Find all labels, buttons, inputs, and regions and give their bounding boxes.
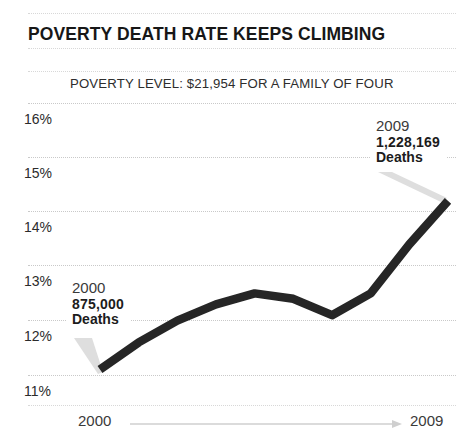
callout-2009-year: 2009 (376, 118, 440, 135)
callout-2009-label: Deaths (376, 150, 440, 166)
callout-2009-value: 1,228,169 (376, 135, 440, 151)
callout-2000-value: 875,000 (72, 297, 124, 313)
data-series-line (100, 201, 448, 370)
x-axis-arrow-icon (130, 419, 405, 429)
leader-line-2009 (378, 172, 447, 202)
callout-2000-label: Deaths (72, 312, 124, 328)
annotation-callout-2009: 2009 1,228,169 Deaths (370, 116, 446, 169)
plot-area (0, 0, 472, 443)
annotation-callout-2000: 2000 875,000 Deaths (66, 278, 130, 331)
callout-2000-year: 2000 (72, 280, 124, 297)
leader-line-2000 (74, 338, 103, 374)
poverty-death-rate-chart: POVERTY DEATH RATE KEEPS CLIMBING POVERT… (0, 0, 472, 443)
x-axis-label-end: 2009 (410, 412, 443, 429)
x-axis-label-start: 2000 (78, 412, 111, 429)
